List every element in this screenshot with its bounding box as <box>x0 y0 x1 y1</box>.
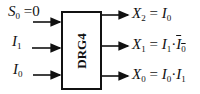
subscript: 1 <box>17 41 22 51</box>
subscript: 0 <box>141 74 146 84</box>
negated-term: I0 <box>176 36 186 52</box>
var: S <box>8 3 16 19</box>
equals-sign: = <box>149 5 157 21</box>
equals-sign: = <box>149 36 157 52</box>
value: 0 <box>32 3 40 19</box>
subscript: 0 <box>18 69 23 79</box>
term-subscript: 1 <box>181 74 186 84</box>
output-label-x2: X2 = I0 <box>132 6 171 26</box>
var: X <box>132 5 141 21</box>
term-subscript: 0 <box>167 13 172 23</box>
term-subscript: 0 <box>181 44 186 54</box>
block-label: DRG4 <box>74 33 90 68</box>
output-label-x0: X0 = I0·I1 <box>132 67 186 87</box>
input-label-i0: I0 <box>13 62 23 82</box>
subscript: 0 <box>16 11 21 21</box>
var: X <box>132 66 141 82</box>
subscript: 1 <box>141 44 146 54</box>
subscript: 2 <box>141 13 146 23</box>
input-label-s0: S0 =0 <box>8 4 40 24</box>
equals-sign: = <box>149 66 157 82</box>
equals-sign: = <box>24 3 32 19</box>
input-label-i1: I1 <box>12 34 22 54</box>
var: X <box>132 36 141 52</box>
drg4-block: DRG4 <box>61 11 102 90</box>
output-label-x1: X1 = I1·I0 <box>132 37 186 57</box>
